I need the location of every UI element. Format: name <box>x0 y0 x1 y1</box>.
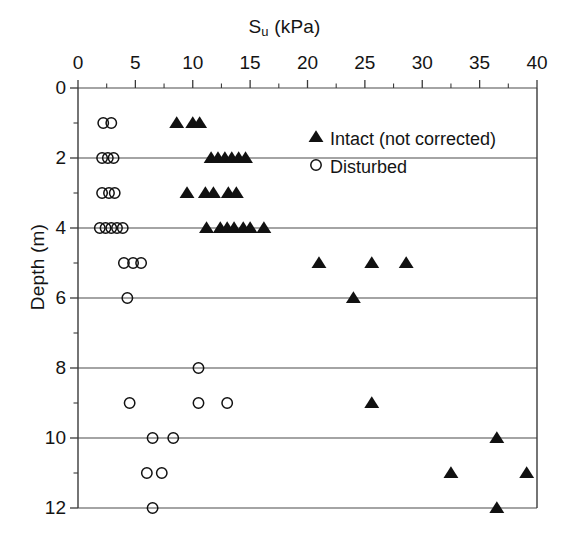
x-tick-label: 10 <box>182 52 203 74</box>
y-tick-label: 12 <box>26 497 66 519</box>
x-tick-label: 15 <box>240 52 261 74</box>
y-tick-label: 4 <box>26 217 66 239</box>
legend-marker-intact <box>309 130 324 142</box>
y-tick-label: 2 <box>26 147 66 169</box>
data-point-intact <box>399 256 414 268</box>
data-point-intact <box>312 256 327 268</box>
data-point-intact <box>199 221 214 233</box>
data-point-disturbed <box>193 398 203 408</box>
data-point-disturbed <box>106 118 116 128</box>
data-point-intact <box>364 256 379 268</box>
data-point-disturbed <box>142 468 152 478</box>
data-point-disturbed <box>222 398 232 408</box>
chart-figure: Su (kPa) Depth (m) 051015202530354002468… <box>0 0 569 540</box>
x-tick-label: 25 <box>354 52 375 74</box>
data-point-intact <box>169 116 184 128</box>
data-point-intact <box>256 221 271 233</box>
data-point-intact <box>519 466 534 478</box>
y-tick-label: 6 <box>26 287 66 309</box>
data-point-disturbed <box>124 398 134 408</box>
x-tick-label: 0 <box>73 52 84 74</box>
y-tick-label: 10 <box>26 427 66 449</box>
legend-label-intact: Intact (not corrected) <box>330 129 496 150</box>
plot-canvas <box>0 0 569 540</box>
data-point-disturbed <box>157 468 167 478</box>
data-point-intact <box>346 291 361 303</box>
y-tick-label: 0 <box>26 77 66 99</box>
data-point-intact <box>489 501 504 513</box>
data-point-intact <box>489 431 504 443</box>
legend-marker-disturbed <box>311 160 321 170</box>
x-tick-label: 40 <box>526 52 547 74</box>
x-tick-label: 5 <box>130 52 141 74</box>
data-point-intact <box>180 186 195 198</box>
x-tick-label: 35 <box>469 52 490 74</box>
x-tick-label: 20 <box>297 52 318 74</box>
series-disturbed <box>95 118 233 513</box>
data-point-disturbed <box>136 258 146 268</box>
legend-label-disturbed: Disturbed <box>330 157 407 178</box>
x-tick-label: 30 <box>412 52 433 74</box>
data-point-intact <box>364 396 379 408</box>
data-point-intact <box>443 466 458 478</box>
y-tick-label: 8 <box>26 357 66 379</box>
